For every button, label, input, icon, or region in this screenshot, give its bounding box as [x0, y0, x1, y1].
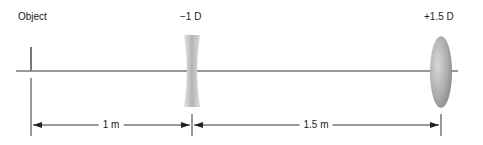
- lens1-power-label: −1 D: [180, 12, 201, 22]
- lens2-power-label: +1.5 D: [424, 12, 454, 22]
- convex-lens: [430, 36, 452, 108]
- arrowhead-left-icon: [33, 122, 42, 128]
- object-label: Object: [18, 12, 47, 22]
- optics-diagram: [0, 0, 483, 145]
- arrowhead-left-icon: [194, 122, 203, 128]
- distance-label-1: 1 m: [99, 120, 124, 130]
- arrowhead-right-icon: [430, 122, 439, 128]
- arrowhead-right-icon: [181, 122, 190, 128]
- distance-label-2: 1.5 m: [299, 120, 332, 130]
- object-marker: [30, 47, 32, 71]
